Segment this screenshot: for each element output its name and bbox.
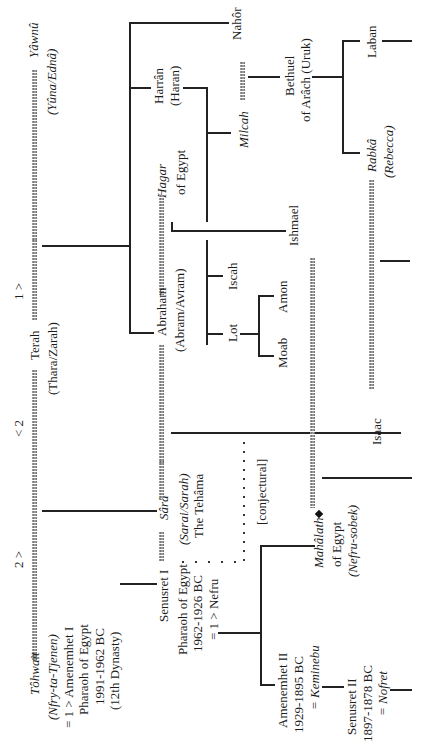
conjectural-dotted-vertical [243,442,245,562]
mahalath-sub: of Egypt [330,522,344,567]
line-to-moab [258,355,274,357]
moab-name: Moab [276,338,290,368]
line-senusret2-descendants [390,689,412,691]
line-to-laban [342,40,360,42]
nahor-name: Nahôr [230,8,244,41]
iscah-name: Iscah [226,263,240,290]
lot-name: Lot [226,324,240,342]
line-to-iscah [206,275,223,277]
marriage-nahor-milcah [240,62,245,100]
tohwait-alt: (Nfry-ta-Tjenen) [46,634,60,720]
line-senusret1-children [218,632,260,634]
line-ishmael-mahalath-descendants [322,477,412,479]
line-lot-trunk [258,295,260,355]
line-to-lot [206,333,223,335]
tohwait-note-2: Pharaoh of Egypt [77,624,91,715]
conjectural-dotted-horizontal [182,561,247,563]
ishmael-name: Ishmael [287,205,301,246]
sara-sub: The Tehâma [192,474,206,538]
amenemhet2-note-1: 1929-1895 BC [292,656,306,733]
senusret2-note-2: = Nofret [376,671,390,716]
senusret1-note-2: 1962-1926 BC [191,575,205,652]
line-lot-children [240,333,259,335]
yawnu-alt: (Yûna/Ednâ) [45,49,59,115]
line-to-abraham [129,332,154,334]
mahalath-alt: (Nefru-sobek) [346,505,360,577]
senusret1-note-3: = 1 > Nefru [207,579,221,640]
tohwait-note-1: = 1 > Amenemhet I [62,627,76,728]
hagar-name: Hagar [155,164,169,198]
tohwait-note-3: 1991-1962 BC [93,628,107,705]
line-senusret1-trunk [260,545,262,685]
marriage-sara-senusret [159,532,164,562]
line-to-amon [258,295,274,297]
marriage-abraham-sara [159,345,164,465]
abraham-name: Abraham [155,288,169,336]
line-to-senusret2 [322,686,344,688]
line-to-senusret1 [120,583,157,585]
laban-name: Laban [365,26,379,58]
line-to-amenemhet2 [260,684,275,686]
terah-alt: (Thara/Zarah) [46,322,60,395]
senusret2-name: Senusret II [345,678,359,735]
genealogy-diagram: Yâwnû (Yûna/Ednâ) 1 > Terah (Thara/Zarah… [0,0,424,747]
amon-name: Amon [276,281,290,314]
line-to-harran [129,87,151,89]
marriage-ishmael-mahalath [310,258,315,508]
marriage-sara-top [159,460,164,500]
line-abraham-sara-children [171,432,401,434]
rebecca-alt: (Rebecca) [382,125,396,178]
line-bethuel-trunk [342,40,344,153]
line-terah-children [42,245,130,247]
milcah-name: Milcah [237,111,251,148]
bethuel-sub: of Arâch (Uruk) [299,38,313,122]
line-to-milcah [206,132,231,134]
sara-alt: (Sarai/Sarah) [177,474,191,546]
line-bethuel-children [312,76,342,78]
line-isaac-descendants [380,260,410,262]
marker-2-left: < 2 [12,420,26,437]
line-to-rebecca [342,152,360,154]
senusret1-note-1: Pharaoh of Egypt [176,564,190,655]
marker-2: 2 > [12,551,26,568]
harran-name: Harrân [152,68,166,104]
harran-alt: (Haran) [168,66,182,106]
isaac-name: Isaac [370,418,384,445]
tohwait-name: Tôhwait [28,652,42,695]
line-to-mahalath [260,545,315,547]
line-to-nahor [129,22,229,24]
marker-1: 1 > [12,283,26,300]
line-to-ishmael [171,230,286,232]
abraham-alt: (Abram/Avram) [173,268,187,352]
rebecca-name: Rabkâ [365,139,379,172]
line-harran-children [183,87,207,89]
marriage-terah-tohwait [32,370,37,660]
marriage-abraham-hagar [159,195,164,295]
bethuel-name: Bethuel [283,56,297,96]
tohwait-note-4: (12th Dynasty) [108,632,122,710]
amenemhet2-name: Amenemhet II [276,653,290,728]
senusret2-note-1: 1897-1878 BC [361,665,375,742]
hagar-sub: of Egypt [174,150,188,195]
marriage-terah-yawnu-2 [32,240,37,320]
conjectural-label: [conjectural] [255,459,269,525]
terah-name: Terah [28,331,42,360]
line-to-sara [42,510,157,512]
line-harran-trunk [206,87,208,222]
senusret1-name: Senusret I [157,570,171,622]
line-terah-sons-trunk [129,22,131,332]
yawnu-name: Yâwnû [27,23,41,58]
line-harran-lower [206,240,208,345]
marriage-terah-yawnu [32,70,37,240]
line-laban-descendants [382,40,412,42]
line-to-bethuel [248,76,280,78]
mahalath-name: Mahâlath [312,517,326,568]
marriage-isaac-rebecca [369,180,374,390]
amenemhet2-note-2: = Keminebu [308,645,322,710]
